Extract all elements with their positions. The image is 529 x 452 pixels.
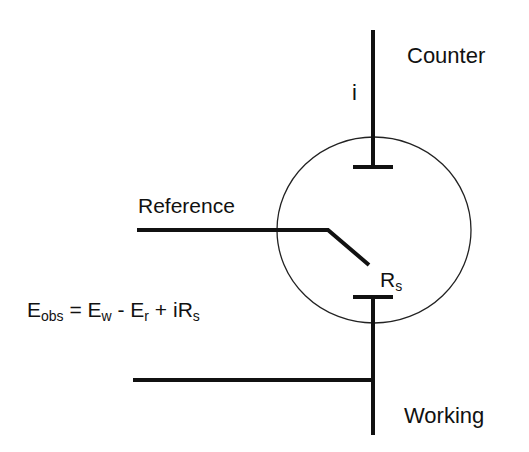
current-label: i [352,80,357,105]
equation: Eobs = Ew - Er + iRs [27,298,200,324]
resistance-label: Rs [380,268,402,294]
eq-minus: - [112,298,131,321]
resistance-subscript: s [395,278,402,294]
resistance-main: R [380,268,395,291]
counter-label: Counter [407,43,485,68]
reference-lead [137,230,369,265]
eq-E-r: E [130,298,144,321]
eq-E-obs: E [27,298,41,321]
electrochemical-cell-diagram: Counter i Reference Working Rs Eobs = Ew… [0,0,529,452]
eq-sub-s: s [193,308,200,324]
eq-equals: = [64,298,88,321]
working-label: Working [404,403,484,428]
eq-sub-obs: obs [41,308,64,324]
reference-label: Reference [138,194,235,217]
eq-plus-iR: + iR [149,298,193,321]
eq-E-w: E [88,298,102,321]
